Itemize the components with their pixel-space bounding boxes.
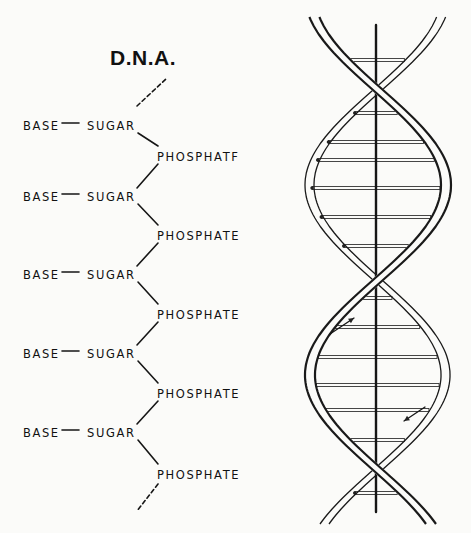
dna-diagram-art [0, 0, 471, 533]
helix-strand-front-edge [305, 17, 441, 524]
sugar-phosphate-bond [138, 440, 158, 464]
sugar-phosphate-bond [138, 361, 158, 383]
chain-continuation-top [137, 79, 166, 106]
arrow-down-icon [404, 416, 410, 421]
sugar-phosphate-bond [138, 282, 158, 304]
sugar-phosphate-bond [138, 133, 158, 146]
phosphate-sugar-bond [137, 164, 158, 188]
nucleotide-dot [310, 186, 314, 190]
phosphate-sugar-bond [137, 243, 158, 266]
helix-strand-back-edge [305, 17, 441, 524]
sugar-phosphate-bond [138, 204, 158, 225]
arrow-up-icon [348, 318, 354, 323]
phosphate-sugar-bond [137, 401, 158, 424]
phosphate-sugar-bond [137, 322, 158, 345]
chain-continuation-bottom [137, 484, 158, 511]
